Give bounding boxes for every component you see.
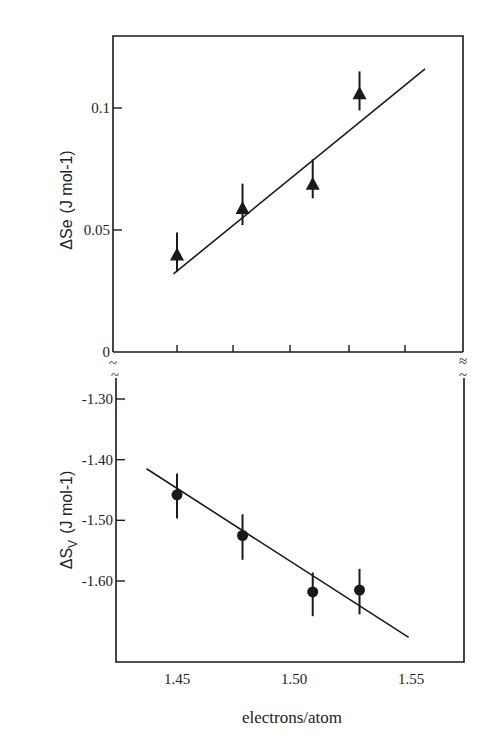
bottom-panel: ~~-1.30-1.40-1.50-1.601.451.501.55	[82, 367, 467, 687]
top-y-tick-label: 0.05	[84, 222, 110, 238]
circle-marker	[237, 530, 248, 541]
bottom-y-tick-label: -1.40	[82, 452, 113, 468]
bottom-panel-frame	[116, 378, 464, 662]
triangle-marker	[170, 247, 184, 260]
chart-canvas: 00.050.1~≈ ~~-1.30-1.40-1.50-1.601.451.5…	[0, 0, 491, 756]
bottom-x-tick-label: 1.45	[164, 671, 190, 687]
bottom-fit-line	[147, 469, 409, 638]
x-axis-title: electrons/atom	[242, 708, 342, 727]
bottom-x-tick-label: 1.50	[281, 671, 307, 687]
bottom-y-axis-title: ΔSV(J mol-1)	[58, 471, 80, 569]
bottom-y-tick-label: -1.30	[82, 391, 113, 407]
bottom-x-tick-label: 1.55	[398, 671, 424, 687]
circle-marker	[354, 585, 365, 596]
top-panel: 00.050.1~≈	[84, 36, 467, 371]
triangle-marker	[306, 177, 320, 190]
top-y-tick-label: 0.1	[91, 100, 110, 116]
triangle-marker	[353, 86, 367, 99]
top-panel-frame	[113, 36, 463, 352]
bottom-y-tick-label: -1.60	[82, 573, 113, 589]
top-fit-line	[173, 69, 425, 274]
bottom-y-tick-label: -1.50	[82, 512, 113, 528]
circle-marker	[307, 586, 318, 597]
left-axis-break-icon: ~	[111, 367, 119, 383]
triangle-marker	[236, 201, 250, 214]
top-y-axis-title: ΔSe(J mol-1)	[58, 150, 75, 249]
right-axis-break-icon: ~	[459, 367, 467, 383]
circle-marker	[172, 489, 183, 500]
